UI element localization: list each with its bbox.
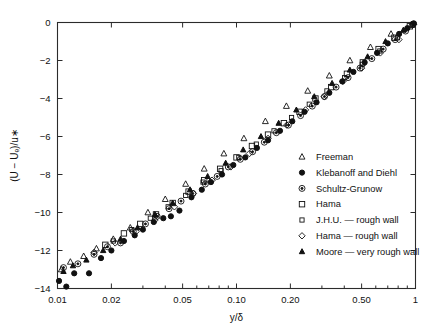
data-marker-open-triangle (367, 44, 373, 50)
data-marker-small-triangle (241, 147, 246, 152)
data-marker-open-triangle (326, 73, 332, 79)
data-marker-filled-circle (177, 208, 182, 213)
data-marker-open-triangle (183, 181, 189, 187)
legend-label: Schultz-Grunow (316, 184, 382, 194)
data-marker-small-triangle (312, 94, 317, 99)
data-marker-filled-circle (72, 271, 77, 276)
data-marker-small-open-square (300, 218, 304, 222)
legend-item: Moore — very rough wall (299, 247, 419, 257)
data-marker-filled-circle (199, 187, 204, 192)
data-marker-small-triangle (258, 134, 263, 139)
x-axis-title: y/δ (230, 312, 244, 323)
data-marker-small-triangle (294, 107, 299, 112)
y-tick-label: −10 (34, 207, 50, 218)
y-tick-label: 0 (45, 17, 50, 28)
y-tick-label: −4 (40, 93, 51, 104)
data-marker-dotted-circle (321, 94, 327, 100)
data-marker-dotted-circle (104, 244, 110, 250)
legend-item: Klebanoff and Diehl (299, 168, 397, 178)
data-marker-small-triangle (205, 174, 210, 179)
data-marker-open-triangle (262, 118, 268, 124)
data-marker-small-triangle (383, 39, 388, 44)
y-tick-label: −6 (40, 131, 51, 142)
x-tick-label: 1 (413, 294, 418, 305)
data-marker-small-triangle (347, 67, 352, 72)
data-marker-dotted-circle (178, 198, 184, 204)
data-marker-open-triangle (305, 88, 311, 94)
data-marker-open-triangle (145, 209, 151, 215)
data-marker-small-triangle (223, 160, 228, 165)
data-marker-open-triangle (347, 57, 353, 63)
x-tick-label: 0.05 (173, 294, 192, 305)
data-marker-small-triangle (187, 187, 192, 192)
y-axis-title: (U − Uₑ)/u∗ (9, 129, 20, 182)
data-marker-open-triangle (162, 196, 168, 202)
velocity-defect-chart: 0.010.020.050.100.200.5010−2−4−6−8−10−12… (0, 0, 444, 332)
x-tick-label: 0.01 (48, 294, 67, 305)
legend-label: Freeman (316, 152, 353, 162)
y-tick-label: −2 (40, 55, 51, 66)
data-marker-small-triangle (276, 120, 281, 125)
legend-label: Hama — rough wall (316, 231, 398, 241)
data-marker-dotted-circle (299, 185, 305, 191)
legend-item: Schultz-Grunow (299, 184, 382, 194)
data-marker-dotted-circle (214, 173, 220, 179)
data-marker-small-triangle (61, 269, 66, 274)
data-marker-open-triangle (299, 154, 305, 160)
data-marker-filled-circle (64, 284, 69, 289)
data-marker-open-triangle (221, 150, 227, 156)
data-marker-filled-circle (98, 256, 103, 261)
data-marker-filled-circle (161, 216, 166, 221)
x-tick-label: 0.20 (281, 294, 300, 305)
data-marker-small-triangle (299, 249, 304, 254)
data-marker-open-triangle (241, 135, 247, 141)
x-tick-label: 0.50 (352, 294, 371, 305)
legend-item: Freeman (299, 152, 353, 162)
legend-label: Moore — very rough wall (316, 247, 419, 257)
y-tick-label: −8 (40, 169, 51, 180)
legend-label: Hama (316, 199, 342, 209)
data-marker-open-square (121, 231, 126, 236)
data-marker-open-triangle (283, 103, 289, 109)
chart-canvas: 0.010.020.050.100.200.5010−2−4−6−8−10−12… (0, 0, 444, 332)
legend-item: Hama (299, 199, 341, 209)
data-marker-small-triangle (170, 200, 175, 205)
y-tick-label: −12 (34, 245, 50, 256)
data-marker-filled-circle (86, 271, 91, 276)
data-marker-small-triangle (329, 80, 334, 85)
data-marker-filled-circle (168, 214, 173, 219)
data-marker-filled-circle (189, 195, 194, 200)
y-tick-label: −14 (34, 283, 50, 294)
data-marker-small-triangle (118, 236, 123, 241)
data-marker-small-triangle (135, 225, 140, 230)
data-marker-dotted-circle (75, 261, 81, 267)
data-marker-filled-circle (299, 170, 304, 175)
data-marker-filled-circle (56, 278, 61, 283)
legend-label: Klebanoff and Diehl (316, 168, 397, 178)
data-marker-open-triangle (201, 166, 207, 172)
data-marker-small-triangle (84, 257, 89, 262)
legend-item: J.H.U. — rough wall (300, 215, 399, 225)
legend-label: J.H.U. — rough wall (316, 215, 399, 225)
data-marker-filled-circle (140, 227, 145, 232)
x-tick-label: 0.02 (102, 294, 121, 305)
data-marker-open-diamond (299, 233, 305, 239)
chart-legend: FreemanKlebanoff and DiehlSchultz-Grunow… (299, 152, 420, 257)
data-marker-small-triangle (365, 54, 370, 59)
legend-item: Hama — rough wall (299, 231, 398, 241)
data-marker-dotted-circle (91, 251, 97, 257)
data-marker-open-square (299, 202, 304, 207)
x-tick-label: 0.10 (227, 294, 246, 305)
